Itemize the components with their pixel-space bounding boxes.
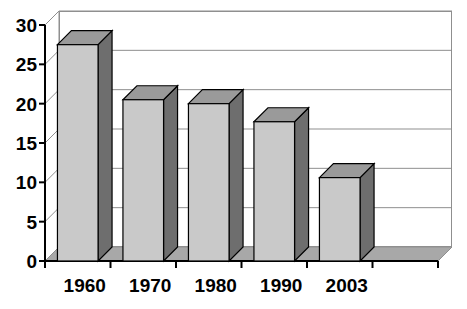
bar-side-face xyxy=(164,86,178,261)
y-tick-label-0: 0 xyxy=(26,252,37,271)
bar-side-face xyxy=(98,31,112,261)
bar-front-face xyxy=(123,100,164,261)
bar-1990 xyxy=(254,108,309,261)
bars-layer xyxy=(0,0,467,309)
x-tick-label-2003: 2003 xyxy=(326,275,368,297)
y-tick-label-30: 30 xyxy=(16,16,37,35)
y-tick-label-25: 25 xyxy=(16,55,37,74)
bar-side-face xyxy=(295,108,309,261)
bar-front-face xyxy=(188,104,229,261)
y-tick-label-5: 5 xyxy=(26,212,37,231)
bar-side-face xyxy=(360,164,374,261)
y-axis-labels: 302520151050 xyxy=(0,0,40,309)
bar-front-face xyxy=(319,178,360,261)
y-tick-label-10: 10 xyxy=(16,173,37,192)
x-tick-label-1970: 1970 xyxy=(129,275,171,297)
x-tick-label-1980: 1980 xyxy=(195,275,237,297)
bar-side-face xyxy=(229,90,243,261)
bar-1960 xyxy=(57,31,112,261)
x-tick-label-1990: 1990 xyxy=(260,275,302,297)
bar-1970 xyxy=(123,86,178,261)
bar-front-face xyxy=(254,122,295,261)
bar-front-face xyxy=(57,45,98,261)
y-tick-label-20: 20 xyxy=(16,94,37,113)
bar-chart: 302520151050 19601970198019902003 xyxy=(0,0,467,309)
y-tick-label-15: 15 xyxy=(16,134,37,153)
bar-2003 xyxy=(319,164,374,261)
bar-1980 xyxy=(188,90,243,261)
x-tick-label-1960: 1960 xyxy=(64,275,106,297)
